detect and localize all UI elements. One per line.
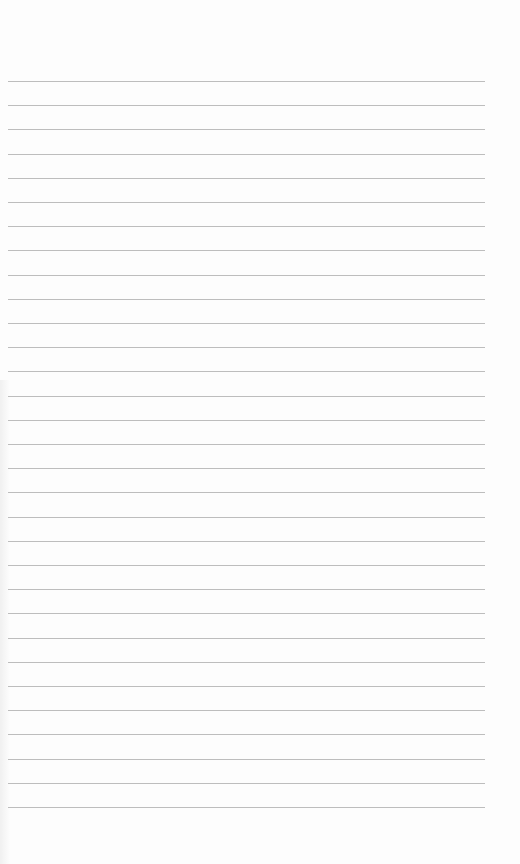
ruled-line bbox=[8, 686, 485, 687]
ruled-line bbox=[8, 396, 485, 397]
ruled-line bbox=[8, 492, 485, 493]
ruled-line bbox=[8, 81, 485, 82]
ruled-line bbox=[8, 638, 485, 639]
ruled-line bbox=[8, 226, 485, 227]
ruled-line bbox=[8, 129, 485, 130]
ruled-line bbox=[8, 275, 485, 276]
page-edge-shadow bbox=[0, 380, 10, 864]
ruled-line bbox=[8, 517, 485, 518]
ruled-line bbox=[8, 759, 485, 760]
ruled-line bbox=[8, 468, 485, 469]
ruled-line bbox=[8, 371, 485, 372]
ruled-line bbox=[8, 420, 485, 421]
ruled-line bbox=[8, 662, 485, 663]
ruled-line bbox=[8, 154, 485, 155]
notebook-page bbox=[0, 0, 520, 864]
ruled-line bbox=[8, 734, 485, 735]
ruled-line bbox=[8, 541, 485, 542]
ruled-line bbox=[8, 783, 485, 784]
ruled-line bbox=[8, 178, 485, 179]
ruled-line bbox=[8, 589, 485, 590]
ruled-line bbox=[8, 807, 485, 808]
ruled-line bbox=[8, 202, 485, 203]
ruled-line bbox=[8, 299, 485, 300]
ruled-line bbox=[8, 323, 485, 324]
ruled-line bbox=[8, 444, 485, 445]
ruled-line bbox=[8, 613, 485, 614]
ruled-line bbox=[8, 565, 485, 566]
ruled-line bbox=[8, 105, 485, 106]
ruled-line bbox=[8, 250, 485, 251]
ruled-line bbox=[8, 347, 485, 348]
ruled-line bbox=[8, 710, 485, 711]
